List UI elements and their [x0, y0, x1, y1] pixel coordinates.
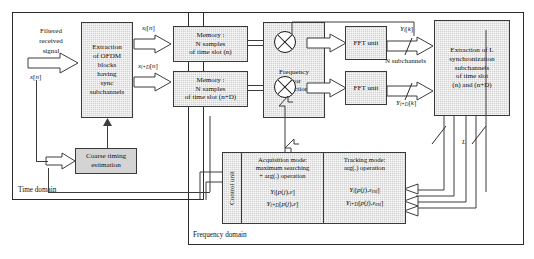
global-feedback-routing — [196, 16, 516, 206]
x-i-n-arrow-icon — [134, 34, 172, 54]
x-i-n-label: xi[n] — [142, 25, 155, 32]
frequency-to-time-return-line — [48, 192, 210, 193]
xn-branch-horizontal — [36, 161, 48, 162]
ofdm-synchronization-diagram: Time domain Frequency domain Filteredrec… — [0, 0, 534, 259]
coarse-timing-label: Coarse timing estimation — [86, 152, 126, 170]
coarse-to-extraction-line — [107, 124, 108, 148]
x-i-d-n-arrow-icon — [134, 72, 172, 92]
input-arrow-icon — [28, 52, 80, 74]
frequency-to-time-return-vertical — [48, 168, 49, 192]
extraction-ofdm-label: Extraction of OFDM blocks having sync su… — [90, 43, 125, 96]
xn-branch-vertical — [36, 80, 37, 161]
frequency-domain-label: Frequency domain — [193, 231, 247, 239]
coarse-timing-input-arrow-icon — [46, 152, 76, 170]
extraction-ofdm-block: Extraction of OFDM blocks having sync su… — [81, 22, 133, 118]
coarse-timing-block: Coarse timing estimation — [75, 148, 137, 174]
coarse-to-extraction-arrowhead-icon — [103, 118, 112, 126]
x-i-d-n-label: xi+D[n] — [138, 63, 158, 70]
